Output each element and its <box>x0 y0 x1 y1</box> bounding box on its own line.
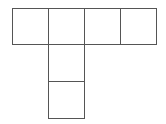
net-square-top-2 <box>48 8 85 45</box>
net-square-bot-2 <box>48 81 85 119</box>
net-square-top-4 <box>120 8 157 45</box>
net-square-top-3 <box>84 8 121 45</box>
net-square-mid-2 <box>48 44 85 82</box>
net-square-top-1 <box>12 8 49 45</box>
